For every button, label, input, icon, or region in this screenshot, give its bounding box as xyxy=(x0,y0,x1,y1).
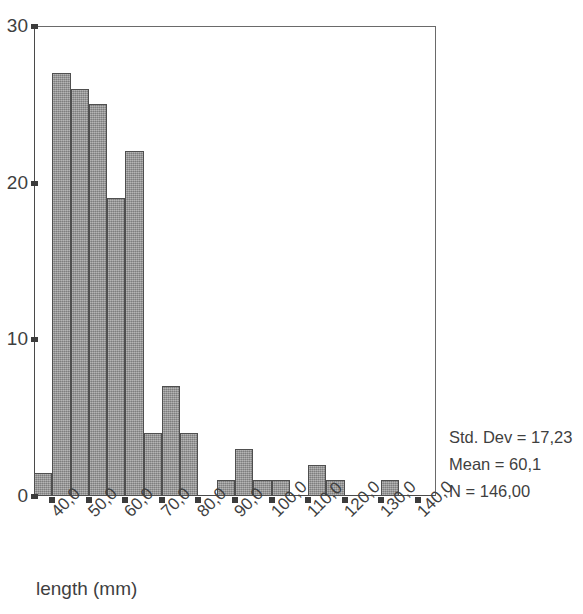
stat-mean: Mean = 60,1 xyxy=(449,451,572,478)
histogram-chart: 0102030 Std. Dev = 17,23 Mean = 60,1 N =… xyxy=(0,0,583,614)
stat-n: N = 146,00 xyxy=(449,478,572,505)
stat-std-dev: Std. Dev = 17,23 xyxy=(449,424,572,451)
statistics-annotation: Std. Dev = 17,23 Mean = 60,1 N = 146,00 xyxy=(449,424,572,505)
y-tick-mark xyxy=(31,494,38,499)
y-tick-mark xyxy=(31,181,38,186)
histogram-bar xyxy=(71,89,89,496)
y-tick-mark xyxy=(31,337,38,342)
histogram-bar xyxy=(52,73,70,496)
x-axis-title: length (mm) xyxy=(36,578,137,600)
y-tick-mark xyxy=(31,24,38,29)
histogram-bar xyxy=(162,386,180,496)
histogram-bar xyxy=(34,473,52,497)
bars-layer xyxy=(0,0,583,614)
histogram-bar xyxy=(107,198,125,496)
histogram-bar xyxy=(125,151,143,496)
histogram-bar xyxy=(89,104,107,496)
